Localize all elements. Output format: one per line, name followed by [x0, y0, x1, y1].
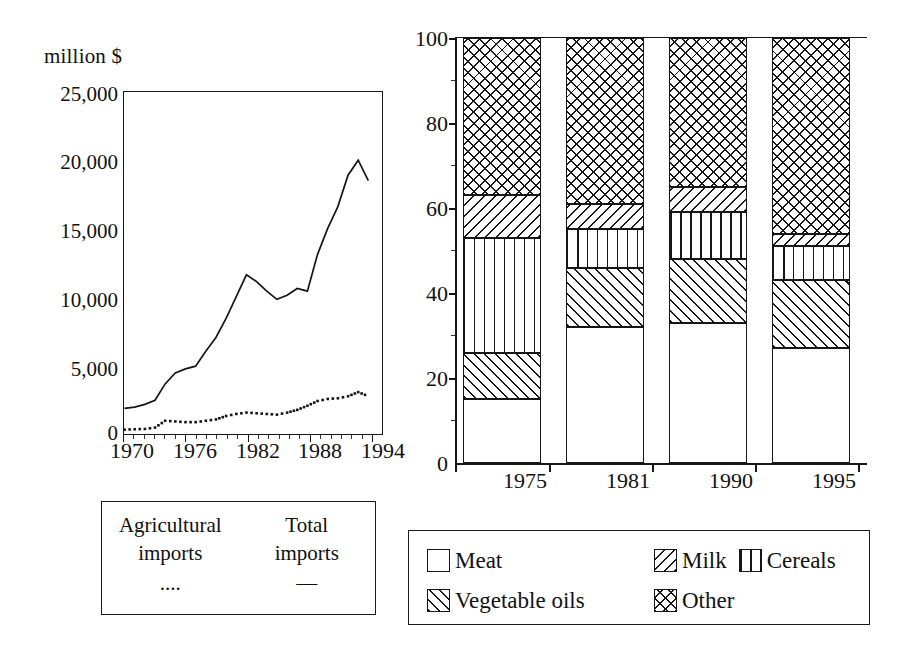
legend-label-milk: Milk — [682, 549, 727, 572]
legend-entry-agricultural-imports-subtitle: imports — [102, 541, 239, 565]
bar-chart-x-axis-line — [455, 463, 867, 465]
bar-chart-x-axis-labels: 1975 1981 1990 1995 — [455, 470, 870, 504]
legend-swatch-vegetable-oils-icon — [427, 589, 450, 612]
legend-item-vegetable-oils[interactable]: Vegetable oils — [427, 589, 642, 612]
bar-1995[interactable] — [772, 38, 850, 463]
legend-row-2: Vegetable oils Other — [427, 580, 869, 620]
bar-x-tick-label: 1981 — [578, 470, 678, 492]
line-chart-legend: Agricultural Total imports imports .... … — [101, 501, 376, 615]
bar-segment-other-1995[interactable] — [772, 38, 850, 234]
bar-segment-meat-1975[interactable] — [463, 399, 541, 463]
bar-y-tick-label: 100 — [402, 28, 448, 50]
line-chart-panel: million $ 25,000 20,000 15,000 10,000 5,… — [0, 0, 410, 658]
bar-y-tick-label: 0 — [402, 453, 448, 475]
bar-1981[interactable] — [566, 38, 644, 463]
bar-segment-meat-1981[interactable] — [566, 327, 644, 463]
legend-swatch-milk-icon — [654, 549, 677, 572]
legend-swatch-other-icon — [654, 589, 677, 612]
bar-segment-meat-1995[interactable] — [772, 348, 850, 463]
legend-entry-total-imports-subtitle: imports — [239, 541, 376, 565]
bar-segment-vegetable-oils-1995[interactable] — [772, 280, 850, 348]
bar-segment-milk-1975[interactable] — [463, 195, 541, 238]
bar-segment-milk-1990[interactable] — [669, 187, 747, 213]
bar-segment-cereals-1995[interactable] — [772, 246, 850, 280]
x-tick-label: 1994 — [361, 440, 405, 462]
legend-item-other[interactable]: Other — [654, 589, 734, 612]
bar-y-tick-label: 40 — [402, 283, 448, 305]
x-minor-tick-mark — [351, 435, 352, 439]
legend-sample-dotted-line: .... — [102, 570, 239, 596]
line-chart-y-axis-labels: 25,000 20,000 15,000 10,000 5,000 0 — [22, 0, 118, 460]
legend-item-meat[interactable]: Meat — [427, 549, 642, 572]
legend-item-milk[interactable]: Milk — [654, 549, 727, 572]
bar-segment-other-1981[interactable] — [566, 38, 644, 204]
bar-y-tick-label: 60 — [402, 198, 448, 220]
x-minor-tick-mark — [154, 435, 155, 439]
legend-label-meat: Meat — [455, 549, 502, 572]
line-chart-series-svg — [124, 92, 381, 433]
x-tick-label: 1988 — [298, 440, 342, 462]
y-tick-label: 25,000 — [26, 84, 118, 105]
bar-segment-other-1975[interactable] — [463, 38, 541, 195]
x-minor-tick-mark — [227, 435, 228, 439]
legend-sample-solid-line: — — [239, 570, 376, 596]
y-tick-label: 10,000 — [26, 290, 118, 311]
legend-swatch-meat-icon — [427, 549, 450, 572]
bar-segment-cereals-1990[interactable] — [669, 212, 747, 259]
bar-x-tick-label: 1990 — [681, 470, 781, 492]
bar-1975[interactable] — [463, 38, 541, 463]
bar-segment-cereals-1975[interactable] — [463, 238, 541, 353]
bar-chart-y-axis-labels: 100 80 60 40 20 0 — [400, 0, 448, 480]
bar-y-tick-label: 80 — [402, 113, 448, 135]
bar-segment-milk-1995[interactable] — [772, 234, 850, 247]
legend-label-other: Other — [682, 589, 734, 612]
bar-x-tick-label: 1995 — [784, 470, 884, 492]
legend-label-vegetable-oils: Vegetable oils — [455, 589, 585, 612]
x-minor-tick-mark — [164, 435, 165, 439]
bar-chart-legend: Meat Milk Cereals Vegetable oils Other — [408, 530, 870, 625]
legend-row-1: Meat Milk Cereals — [427, 540, 869, 580]
legend-label-cereals: Cereals — [767, 549, 836, 572]
y-tick-label: 5,000 — [26, 359, 118, 380]
legend-entry-agricultural-imports-title: Agricultural — [102, 513, 239, 537]
y-tick-label: 20,000 — [26, 152, 118, 173]
line-series-total-imports — [125, 160, 369, 408]
legend-swatch-cereals-icon — [739, 549, 762, 572]
bar-segment-cereals-1981[interactable] — [566, 229, 644, 267]
bar-segment-other-1990[interactable] — [669, 38, 747, 187]
bar-segment-vegetable-oils-1975[interactable] — [463, 353, 541, 400]
bar-x-tick-label: 1975 — [475, 470, 575, 492]
bar-segment-milk-1981[interactable] — [566, 204, 644, 230]
bar-y-tick-label: 20 — [402, 368, 448, 390]
line-chart-plot-area — [123, 91, 383, 435]
bar-segment-vegetable-oils-1990[interactable] — [669, 259, 747, 323]
x-minor-tick-mark — [289, 435, 290, 439]
y-tick-label: 15,000 — [26, 221, 118, 242]
y-tick-label: 0 — [26, 423, 118, 444]
bar-segment-meat-1990[interactable] — [669, 323, 747, 463]
line-series-agricultural-imports — [124, 391, 366, 431]
bar-1990[interactable] — [669, 38, 747, 463]
legend-entry-total-imports-title: Total — [239, 513, 376, 537]
bar-chart-y-axis-line — [455, 38, 457, 465]
bar-segment-vegetable-oils-1981[interactable] — [566, 268, 644, 328]
x-tick-label: 1982 — [236, 440, 280, 462]
legend-item-cereals[interactable]: Cereals — [739, 549, 836, 572]
x-tick-label: 1976 — [173, 440, 217, 462]
line-chart-x-axis-labels: 1970 1976 1982 1988 1994 — [110, 440, 410, 474]
x-tick-label: 1970 — [110, 440, 154, 462]
stacked-bar-chart-panel: 100 80 60 40 20 0 1975 1981 1990 1995 Me… — [400, 0, 910, 658]
